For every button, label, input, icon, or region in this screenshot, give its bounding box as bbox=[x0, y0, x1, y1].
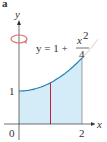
equation-label: y = 1 + x 2 4 bbox=[36, 29, 89, 60]
equation-lhs: y = 1 + bbox=[36, 42, 68, 54]
x-axis-label: x bbox=[96, 118, 102, 130]
equation-exponent: 2 bbox=[83, 29, 89, 41]
x-axis-arrow-icon bbox=[91, 122, 95, 126]
corner-label: a bbox=[2, 0, 8, 9]
equation-denominator: 4 bbox=[79, 48, 85, 60]
origin-label: 0 bbox=[9, 127, 15, 139]
y-axis-label: y bbox=[14, 8, 20, 20]
figure: a y x 0 2 1 y = 1 + x 2 4 bbox=[0, 0, 107, 142]
y-tick-label-1: 1 bbox=[9, 85, 15, 97]
y-axis-arrow-icon bbox=[17, 20, 21, 25]
x-tick-label-2: 2 bbox=[79, 127, 85, 139]
equation-numerator: x bbox=[76, 34, 82, 46]
